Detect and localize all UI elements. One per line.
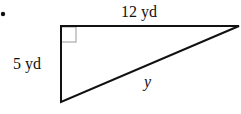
triangle (61, 26, 239, 102)
bullet-dot (1, 12, 5, 16)
label-left-side: 5 yd (13, 56, 41, 72)
label-hypotenuse: y (144, 74, 151, 90)
right-angle-marker (61, 27, 76, 42)
label-top-side: 12 yd (121, 4, 157, 20)
